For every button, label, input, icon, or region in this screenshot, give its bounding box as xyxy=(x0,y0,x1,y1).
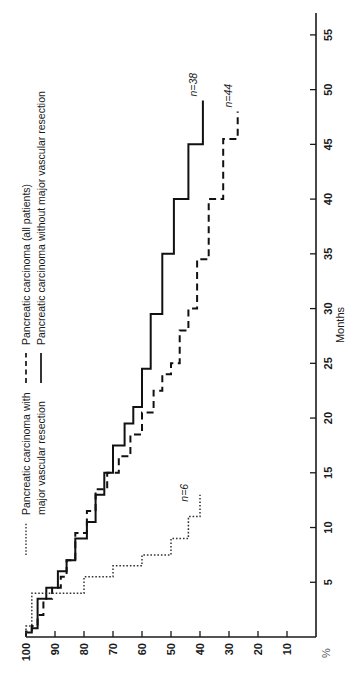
curve-group xyxy=(26,101,238,637)
x-axis-ticks: 510152025303540455055 xyxy=(310,29,334,586)
legend-label-with-resection-line2: major vascular resection xyxy=(35,401,47,515)
survival-curve-figure: 510152025303540455055 102030405060708090… xyxy=(0,0,361,673)
legend-lower-group: Pancreatic carcinoma with major vascular… xyxy=(20,392,47,555)
legend-label-without-resection: Pancreatic carcinoma without major vascu… xyxy=(35,91,47,345)
series-curve-solid xyxy=(26,101,203,637)
annotation-group: n=38n=44n=6 xyxy=(178,73,234,502)
y-tick-label: 30 xyxy=(223,643,235,655)
x-tick-label: 40 xyxy=(322,193,334,205)
n-annotation: n=44 xyxy=(222,84,234,108)
n-annotation: n=6 xyxy=(178,484,190,502)
x-tick-label: 45 xyxy=(322,138,334,150)
x-tick-label: 30 xyxy=(322,302,334,314)
x-tick-label: 5 xyxy=(322,579,334,585)
x-tick-label: 15 xyxy=(322,467,334,479)
legend-label-with-resection-line1: Pancreatic carcinoma with xyxy=(20,392,32,515)
y-tick-label: 80 xyxy=(78,643,90,655)
x-tick-label: 20 xyxy=(322,412,334,424)
x-axis-title: Months xyxy=(334,306,346,343)
kaplan-meier-plot: 510152025303540455055 102030405060708090… xyxy=(0,0,361,673)
x-tick-label: 25 xyxy=(322,357,334,369)
y-tick-label: 60 xyxy=(136,643,148,655)
y-axis-ticks: 102030405060708090100 xyxy=(20,631,293,661)
rotated-plot-stage: 510152025303540455055 102030405060708090… xyxy=(0,0,361,673)
series-curve-dashed xyxy=(26,112,238,637)
x-tick-label: 10 xyxy=(322,521,334,533)
y-axis-unit-label: % xyxy=(320,648,332,658)
y-tick-label: 90 xyxy=(49,643,61,655)
x-tick-label: 35 xyxy=(322,248,334,260)
x-tick-label: 55 xyxy=(322,29,334,41)
series-curve-dotted xyxy=(26,495,200,637)
legend-top-group: Pancreatic carcinoma (all patients) Panc… xyxy=(20,91,47,383)
y-tick-label: 100 xyxy=(20,643,32,661)
x-tick-label: 50 xyxy=(322,84,334,96)
legend-label-all-patients: Pancreatic carcinoma (all patients) xyxy=(20,184,32,345)
y-tick-label: 20 xyxy=(252,643,264,655)
y-tick-label: 70 xyxy=(107,643,119,655)
y-tick-label: 10 xyxy=(281,643,293,655)
y-tick-label: 40 xyxy=(194,643,206,655)
n-annotation: n=38 xyxy=(187,73,199,97)
y-tick-label: 50 xyxy=(165,643,177,655)
